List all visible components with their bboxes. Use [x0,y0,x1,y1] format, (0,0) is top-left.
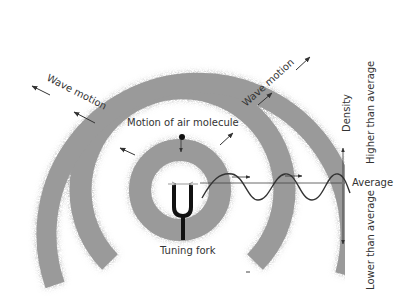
inner-ring [140,150,220,230]
wave-motion-arrow-left-innermost [120,148,135,155]
wave-motion-label-left: Wave motion [45,72,108,112]
diagram-svg: Wave motion Wave motion Motion of air mo… [0,0,410,303]
air-molecule-dot [179,134,185,140]
sound-wave-diagram: Wave motion Wave motion Motion of air mo… [0,0,410,303]
wave-motion-arrow-right-outer [296,57,310,70]
density-label: Density [341,94,352,132]
wave-motion-arrow-left-outer [32,86,50,95]
lower-than-average-label: Lower than average [365,190,376,290]
wave-motion-arrow-right-inner [220,133,233,145]
average-label: Average [352,177,393,188]
higher-than-average-label: Higher than average [365,61,376,164]
tuning-fork-label: Tuning fork [159,245,216,256]
motion-of-air-molecule-label: Motion of air molecule [127,117,239,128]
